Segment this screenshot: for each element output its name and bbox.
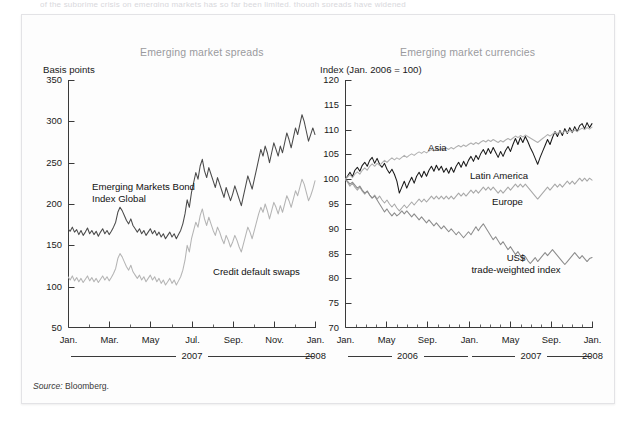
y-tick-90: 90 — [313, 223, 339, 234]
y-tick-300: 300 — [36, 115, 62, 126]
x-tick-2: May — [131, 334, 171, 345]
y-tick-105: 105 — [313, 148, 339, 159]
x-tick-4: May — [491, 334, 531, 345]
y-tick-70: 70 — [313, 322, 339, 333]
annotation-credit-default-swaps: Credit default swaps — [213, 266, 300, 278]
source-note: Source: Bloomberg. — [33, 381, 109, 391]
annotation-embi-line2: Index Global — [92, 193, 195, 205]
x-year-rule — [348, 356, 392, 357]
plot-area-currencies — [345, 80, 593, 328]
y-tick-200: 200 — [36, 198, 62, 209]
x-tick-3: Jul. — [173, 334, 213, 345]
annotation-usd-line1: US$ — [452, 252, 580, 264]
figure-root: of the subprime crisis on emerging marke… — [0, 0, 634, 434]
x-tick-1: Mar. — [90, 334, 130, 345]
annotation-usd-trade-weighted: US$ trade-weighted index — [452, 252, 580, 276]
annotation-embi-line1: Emerging Markets Bond — [92, 181, 195, 193]
y-tick-100: 100 — [36, 281, 62, 292]
x-tick-0: Jan. — [326, 334, 366, 345]
annotation-latin-america: Latin America — [470, 170, 528, 182]
x-tick-5: Nov. — [255, 334, 295, 345]
y-tick-120: 120 — [313, 74, 339, 85]
x-tick-2: Sep. — [408, 334, 448, 345]
annotation-embi-global: Emerging Markets Bond Index Global — [92, 181, 195, 205]
annotation-asia: Asia — [428, 142, 447, 154]
y-tick-80: 80 — [313, 272, 339, 283]
x-year-rule — [472, 356, 516, 357]
chart-title-currencies: Emerging market currencies — [400, 46, 535, 58]
x-year-rule — [424, 356, 468, 357]
x-tick-0: Jan. — [49, 334, 89, 345]
y-tick-95: 95 — [313, 198, 339, 209]
y-tick-150: 150 — [36, 239, 62, 250]
source-value: Bloomberg. — [65, 381, 109, 391]
clipped-caption-text: of the subprime crisis on emerging marke… — [40, 0, 600, 7]
x-tick-1: May — [367, 334, 407, 345]
x-year-2008: 2008 — [570, 350, 616, 361]
y-tick-75: 75 — [313, 297, 339, 308]
annotation-usd-line2: trade-weighted index — [452, 264, 580, 276]
x-year-2008: 2008 — [293, 350, 339, 361]
y-tick-350: 350 — [36, 74, 62, 85]
annotation-europe: Europe — [492, 196, 523, 208]
source-prefix: Source: — [33, 381, 63, 391]
x-tick-4: Sep. — [214, 334, 254, 345]
y-tick-250: 250 — [36, 157, 62, 168]
y-tick-50: 50 — [36, 322, 62, 333]
currencies-svg — [345, 80, 593, 328]
x-tick-6: Jan. — [573, 334, 613, 345]
y-tick-115: 115 — [313, 99, 339, 110]
series-currencies — [345, 123, 592, 265]
x-year-rule — [71, 356, 177, 357]
y-tick-110: 110 — [313, 124, 339, 135]
chart-title-spreads: Emerging market spreads — [140, 46, 264, 58]
y-tick-85: 85 — [313, 248, 339, 259]
x-tick-5: Sep. — [532, 334, 572, 345]
y-tick-100: 100 — [313, 173, 339, 184]
x-tick-3: Jan. — [450, 334, 490, 345]
axes-currencies — [346, 80, 594, 328]
